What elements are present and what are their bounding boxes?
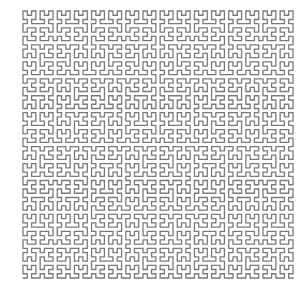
hilbert-curve-drawing — [0, 0, 307, 290]
hilbert-curve-path — [23, 11, 293, 278]
